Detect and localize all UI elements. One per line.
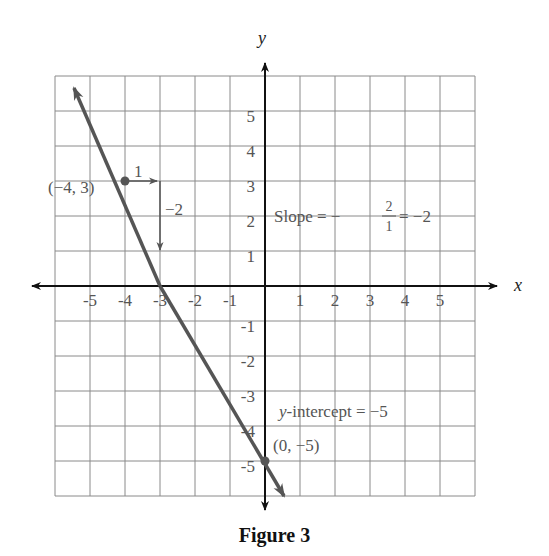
svg-text:3: 3 [366, 291, 375, 310]
svg-text:2: 2 [331, 291, 340, 310]
y-axis-label: y [256, 28, 266, 48]
svg-text:-4: -4 [118, 291, 133, 310]
svg-text:-2: -2 [188, 291, 202, 310]
x-axis-label: x [513, 275, 522, 295]
svg-text:1: 1 [296, 291, 305, 310]
figure-caption: Figure 3 [0, 524, 549, 547]
svg-text:= −2: = −2 [399, 207, 431, 226]
point-neg4-3 [121, 177, 130, 186]
svg-text:2: 2 [386, 199, 393, 214]
svg-text:Slope = −: Slope = − [274, 207, 340, 226]
svg-text:3: 3 [247, 177, 256, 196]
rise-label: −2 [165, 200, 183, 219]
svg-text:y-intercept = −5: y-intercept = −5 [277, 402, 388, 421]
svg-text:4: 4 [401, 291, 410, 310]
svg-text:-5: -5 [241, 457, 255, 476]
y-tick-labels: 5 4 3 2 1 -1 -2 -3 -4 -5 [241, 107, 256, 476]
svg-text:-1: -1 [223, 291, 237, 310]
svg-text:5: 5 [247, 107, 256, 126]
point-label-neg4-3: (−4, 3) [48, 178, 94, 197]
svg-text:5: 5 [436, 291, 445, 310]
intercept-annotation: y-intercept = −5 [277, 402, 388, 421]
svg-text:-5: -5 [83, 291, 97, 310]
svg-text:-1: -1 [241, 317, 255, 336]
x-tick-labels: -5 -4 -3 -2 -1 1 2 3 4 5 [83, 291, 444, 310]
point-0-neg5 [261, 457, 270, 466]
run-label: 1 [134, 162, 143, 181]
svg-text:-3: -3 [241, 387, 255, 406]
svg-text:4: 4 [247, 142, 256, 161]
svg-text:1: 1 [247, 247, 256, 266]
svg-text:-2: -2 [241, 352, 255, 371]
point-label-0-neg5: (0, −5) [273, 436, 319, 455]
coordinate-plane: x y -5 -4 -3 -2 -1 1 2 3 4 5 5 4 3 2 1 -… [0, 0, 549, 556]
svg-text:1: 1 [386, 219, 393, 234]
svg-text:2: 2 [247, 212, 256, 231]
